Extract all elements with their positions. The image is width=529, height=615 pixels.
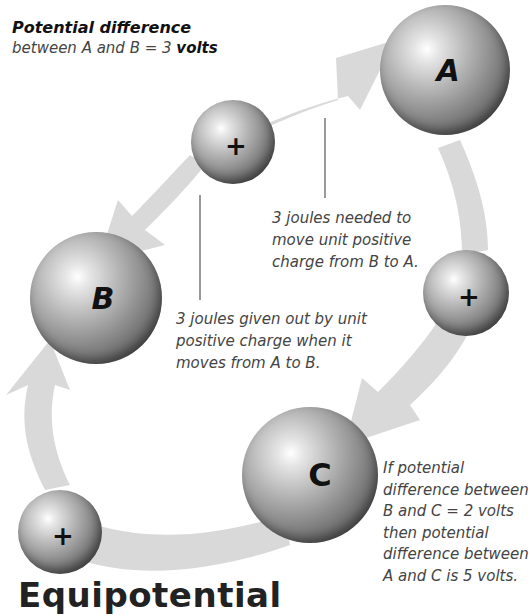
plus-icon: + bbox=[458, 284, 480, 310]
charge-right: + bbox=[423, 250, 509, 336]
arc-plus-to-C bbox=[80, 515, 290, 571]
annotation-line: 3 joules given out by unit bbox=[176, 308, 367, 330]
annotation-line: moves from A to B. bbox=[176, 352, 367, 374]
annotation-line: charge from B to A. bbox=[272, 251, 419, 273]
annotation-line: A and C is 5 volts. bbox=[383, 566, 529, 588]
charge-top: + bbox=[191, 100, 275, 184]
sphere-B: B bbox=[30, 232, 162, 364]
charge-bottom: + bbox=[18, 490, 102, 574]
annotation-line: move unit positive bbox=[272, 229, 419, 251]
sphere-B-label: B bbox=[92, 281, 115, 316]
annotation-line: If potential bbox=[383, 458, 529, 480]
plus-icon: + bbox=[225, 133, 247, 159]
sphere-A: A bbox=[380, 5, 510, 135]
annotation-line: positive charge when it bbox=[176, 330, 367, 352]
header-subtitle-text: between A and B = 3 bbox=[12, 39, 176, 57]
plus-icon: + bbox=[52, 523, 74, 549]
annotation-needed: 3 joules needed to move unit positive ch… bbox=[272, 207, 419, 273]
header-title: Potential difference bbox=[12, 18, 218, 38]
annotation-given-out: 3 joules given out by unit positive char… bbox=[176, 308, 367, 374]
sphere-A-label: A bbox=[436, 53, 459, 88]
sphere-C: C bbox=[242, 407, 378, 543]
arrow-to-B-from-bottom bbox=[6, 340, 70, 490]
annotation-line: difference between bbox=[383, 480, 529, 502]
sphere-C-label: C bbox=[308, 456, 331, 494]
annotation-c-note: If potential difference between B and C … bbox=[383, 458, 529, 587]
annotation-line: 3 joules needed to bbox=[272, 207, 419, 229]
annotation-line: then potential bbox=[383, 523, 529, 545]
header: Potential difference between A and B = 3… bbox=[12, 18, 218, 58]
header-subtitle: between A and B = 3 volts bbox=[12, 38, 218, 58]
annotation-line: difference between bbox=[383, 544, 529, 566]
arc-A-to-plus-right bbox=[438, 140, 488, 255]
header-subtitle-bold: volts bbox=[176, 39, 217, 57]
annotation-line: B and C = 2 volts bbox=[383, 501, 529, 523]
section-heading: Equipotential bbox=[18, 575, 282, 615]
